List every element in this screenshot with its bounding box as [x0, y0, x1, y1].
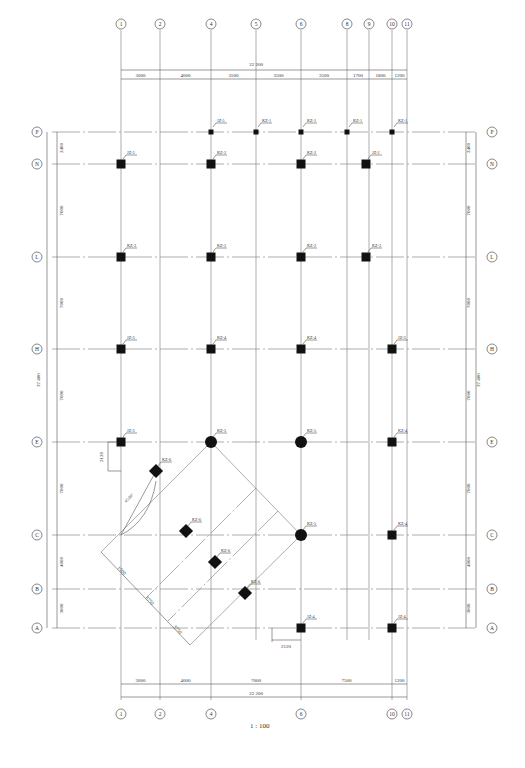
- column-kz-3-12: [362, 253, 371, 262]
- axis-label-right-P: P: [490, 129, 493, 135]
- axis-label-bottom-4: 4: [210, 711, 213, 717]
- axis-label-bottom-6: 6: [300, 711, 303, 717]
- column-label: KZ-6: [221, 548, 230, 553]
- column-label: KZ-1: [398, 118, 407, 123]
- column-label: KZ-6: [251, 579, 260, 584]
- axis-label-right-H: H: [490, 346, 494, 352]
- column-jz-5-0: [209, 130, 214, 135]
- column-kz-5-19: [295, 436, 307, 448]
- axis-label-left-P: P: [35, 129, 38, 135]
- column-label: KZ-4: [217, 335, 227, 340]
- axis-label-left-A: A: [35, 625, 39, 631]
- total-height-left: 37 400: [36, 373, 41, 387]
- axis-label-11: 11: [404, 21, 410, 27]
- axis-label-1: 1: [120, 21, 123, 27]
- column-kz-4-20: [388, 438, 397, 447]
- column-label: JZ-5: [217, 118, 225, 123]
- column-label: JZ-3: [127, 335, 135, 340]
- column-kz-2-11: [297, 253, 306, 262]
- column-kz-6-28: [238, 586, 252, 600]
- column-label: KZ-5: [217, 428, 226, 433]
- axis-label-5: 5: [255, 21, 258, 27]
- axis-label-bottom-11: 11: [404, 711, 410, 717]
- column-label: JZ-2: [372, 150, 380, 155]
- top-dim-1: 4000: [181, 73, 192, 78]
- column-kz-6-27: [208, 555, 222, 569]
- axis-bubbles: 1122445668910101111PPNNLLHHEECCBBAA: [32, 19, 497, 719]
- grid-lines: [52, 30, 475, 700]
- right-dims-5: 4000: [466, 557, 471, 568]
- column-label: KZ-2: [307, 243, 316, 248]
- scale-label: 1 : 100: [250, 722, 270, 730]
- total-height-right: 37 400: [476, 373, 481, 387]
- top-dim-0: 3000: [136, 73, 147, 78]
- total-width-top: 22 200: [249, 62, 263, 67]
- left-dims-6: 3000: [59, 603, 64, 614]
- column-label: KZ-1: [353, 118, 362, 123]
- total-width-bottom: 22 200: [249, 691, 263, 696]
- column-label: KZ-1: [262, 118, 271, 123]
- column-kz-2-7: [297, 160, 306, 169]
- column-kz-1-4: [390, 130, 395, 135]
- right-dims-3: 7000: [466, 390, 471, 401]
- column-jz-3-16: [388, 345, 397, 354]
- column-label: KZ-4: [307, 335, 317, 340]
- axis-label-right-A: A: [490, 625, 494, 631]
- left-dims-5: 4000: [59, 557, 64, 568]
- bottom-dim-1: 4000: [181, 678, 192, 683]
- axis-label-right-C: C: [490, 532, 494, 538]
- left-dims-0: 2400: [59, 143, 64, 154]
- left-dims-4: 7000: [59, 483, 64, 494]
- column-kz-6-26: [179, 524, 193, 538]
- offset-bottom-label: 2120: [281, 644, 292, 649]
- axis-label-left-C: C: [35, 532, 39, 538]
- column-label: KZ-2: [217, 150, 226, 155]
- skew-dim-2: 3750: [144, 595, 155, 606]
- axis-label-4: 4: [210, 21, 213, 27]
- axis-label-bottom-1: 1: [120, 711, 123, 717]
- column-label: JZ-4: [307, 614, 316, 619]
- column-kz-4-14: [207, 345, 216, 354]
- axis-label-left-N: N: [35, 161, 39, 167]
- column-kz-2-10: [207, 253, 216, 262]
- column-kz-3-9: [117, 253, 126, 262]
- column-kz-2-6: [207, 160, 216, 169]
- right-dims-0: 2400: [466, 143, 471, 154]
- column-label: KZ-4: [398, 428, 408, 433]
- column-label: KZ-2: [217, 243, 226, 248]
- skew-dim-3: 3750: [172, 624, 183, 635]
- right-dims-6: 3000: [466, 603, 471, 614]
- top-dim-6: 1800: [376, 73, 387, 78]
- top-dim-5: 1700: [353, 73, 364, 78]
- column-label: JZ-3: [127, 150, 135, 155]
- axis-label-2: 2: [159, 21, 162, 27]
- axis-label-10: 10: [389, 21, 395, 27]
- column-layout-plan: 3000400035003500350017001800120030004000…: [0, 0, 525, 768]
- bottom-dim-3: 7500: [342, 678, 353, 683]
- offset-left-label: 2120: [99, 452, 104, 463]
- column-label: KZ-5: [307, 521, 316, 526]
- column-label: KZ-6: [162, 457, 171, 462]
- column-jz-4-23: [297, 624, 306, 633]
- column-kz-1-2: [299, 130, 304, 135]
- axis-label-bottom-2: 2: [159, 711, 162, 717]
- column-label: KZ-2: [307, 150, 316, 155]
- right-dims-4: 7000: [466, 483, 471, 494]
- axis-label-left-B: B: [35, 586, 39, 592]
- top-dim-3: 3500: [274, 73, 285, 78]
- column-label: KZ-5: [307, 428, 316, 433]
- column-jz-3-5: [117, 160, 126, 169]
- axis-label-right-N: N: [490, 161, 494, 167]
- column-kz-4-22: [388, 531, 397, 540]
- axis-label-left-H: H: [35, 346, 39, 352]
- column-kz-6-25: [149, 464, 163, 478]
- angle-label: 45.00°: [123, 492, 135, 504]
- axis-label-9: 9: [368, 21, 371, 27]
- axis-label-bottom-10: 10: [389, 711, 395, 717]
- skew-dim-1: 1500: [116, 565, 127, 576]
- axis-label-6: 6: [300, 21, 303, 27]
- column-kz-5-21: [295, 529, 307, 541]
- column-label: KZ-4: [398, 521, 408, 526]
- drawing-sheet: 3000400035003500350017001800120030004000…: [0, 0, 525, 768]
- column-label: JZ-3: [398, 335, 406, 340]
